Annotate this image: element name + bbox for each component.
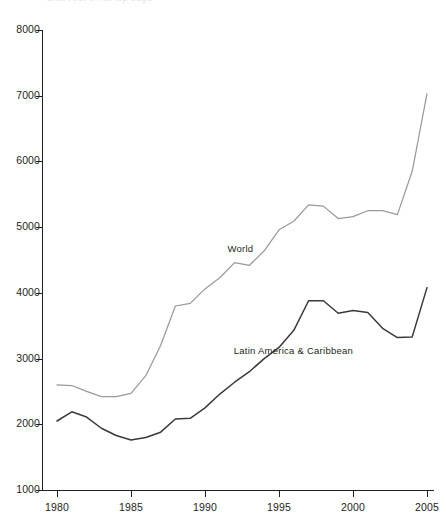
y-tick-label: 2000 <box>0 417 40 429</box>
x-tick-label: 2005 <box>405 501 446 513</box>
y-tick-label: 7000 <box>0 89 40 101</box>
x-tick-label: 1990 <box>183 501 227 513</box>
line-chart: Chart cut off at top edge 10002000300040… <box>0 0 446 529</box>
y-tick-label: 4000 <box>0 286 40 298</box>
y-tick-label: 8000 <box>0 23 40 35</box>
y-tick-label: 5000 <box>0 220 40 232</box>
series-line-latin-america-caribbean <box>57 288 427 440</box>
x-tick-label: 1985 <box>109 501 153 513</box>
chart-canvas <box>0 0 446 529</box>
series-label-world: World <box>227 243 253 254</box>
x-tick-label: 1980 <box>35 501 79 513</box>
y-tick-label: 3000 <box>0 352 40 364</box>
series-label-latin-america-caribbean: Latin America & Caribbean <box>234 345 353 356</box>
y-tick-label: 1000 <box>0 483 40 495</box>
x-tick-label: 1995 <box>257 501 301 513</box>
x-tick-label: 2000 <box>331 501 375 513</box>
y-tick-label: 6000 <box>0 154 40 166</box>
